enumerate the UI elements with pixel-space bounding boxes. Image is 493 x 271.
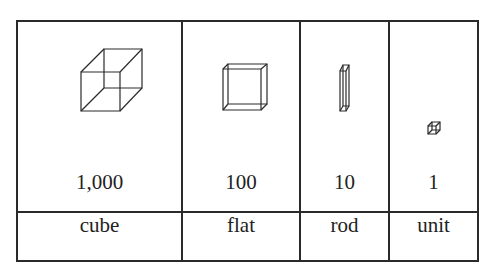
cell-flat-label: flat: [183, 213, 299, 260]
cell-cube-figure: 1,000: [18, 22, 181, 211]
cell-cube-label: cube: [18, 213, 181, 260]
flat-value: 100: [183, 170, 299, 195]
unit-label: unit: [390, 213, 477, 238]
rod-value: 10: [301, 170, 388, 195]
cell-rod-figure: 10: [301, 22, 388, 211]
cell-rod-label: rod: [301, 213, 388, 260]
cube-value: 1,000: [18, 170, 181, 195]
rod-label: rod: [301, 213, 388, 238]
unit-value: 1: [390, 170, 477, 195]
cell-unit-figure: 1: [390, 22, 477, 211]
flat-label: flat: [183, 213, 299, 238]
cube-label: cube: [18, 213, 181, 238]
cell-unit-label: unit: [390, 213, 477, 260]
cell-flat-figure: 100: [183, 22, 299, 211]
